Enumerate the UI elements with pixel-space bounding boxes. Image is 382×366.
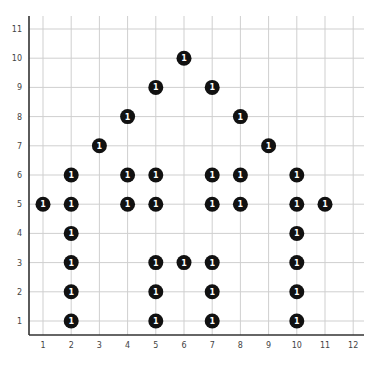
data-point-marker: 1 bbox=[289, 314, 304, 329]
data-point-marker: 1 bbox=[233, 168, 248, 183]
marker-label: 1 bbox=[209, 259, 215, 268]
marker-label: 1 bbox=[209, 200, 215, 209]
data-point-marker: 1 bbox=[205, 284, 220, 299]
marker-label: 1 bbox=[68, 200, 74, 209]
y-tick-label: 7 bbox=[17, 142, 22, 151]
marker-label: 1 bbox=[40, 200, 46, 209]
data-point-marker: 1 bbox=[289, 168, 304, 183]
y-tick-label: 2 bbox=[17, 288, 22, 297]
data-point-marker: 1 bbox=[205, 80, 220, 95]
data-point-marker: 1 bbox=[289, 284, 304, 299]
data-point-marker: 1 bbox=[120, 168, 135, 183]
data-point-marker: 1 bbox=[233, 109, 248, 124]
marker-label: 1 bbox=[238, 113, 244, 122]
data-point-marker: 1 bbox=[205, 314, 220, 329]
y-tick-label: 4 bbox=[17, 229, 22, 238]
x-tick-label: 1 bbox=[40, 341, 45, 350]
marker-label: 1 bbox=[294, 317, 300, 326]
marker-label: 1 bbox=[153, 317, 159, 326]
marker-label: 1 bbox=[68, 317, 74, 326]
marker-label: 1 bbox=[209, 317, 215, 326]
data-point-marker: 1 bbox=[120, 197, 135, 212]
marker-label: 1 bbox=[153, 200, 159, 209]
y-tick-label: 5 bbox=[17, 200, 22, 209]
y-tick-labels: 1234567891011 bbox=[12, 25, 22, 326]
data-point-marker: 1 bbox=[177, 255, 192, 270]
marker-label: 1 bbox=[153, 83, 159, 92]
x-tick-label: 6 bbox=[181, 341, 186, 350]
marker-label: 1 bbox=[238, 200, 244, 209]
data-point-marker: 1 bbox=[148, 80, 163, 95]
marker-label: 1 bbox=[181, 259, 187, 268]
data-point-marker: 1 bbox=[64, 255, 79, 270]
data-point-marker: 1 bbox=[148, 314, 163, 329]
data-point-marker: 1 bbox=[120, 109, 135, 124]
marker-label: 1 bbox=[68, 171, 74, 180]
x-tick-label: 7 bbox=[210, 341, 215, 350]
marker-label: 1 bbox=[153, 171, 159, 180]
x-tick-label: 10 bbox=[292, 341, 302, 350]
y-tick-label: 8 bbox=[17, 113, 22, 122]
x-tick-label: 3 bbox=[97, 341, 102, 350]
x-tick-label: 5 bbox=[153, 341, 158, 350]
y-tick-label: 11 bbox=[12, 25, 22, 34]
data-point-marker: 1 bbox=[148, 197, 163, 212]
data-point-marker: 1 bbox=[261, 138, 276, 153]
data-point-marker: 1 bbox=[148, 255, 163, 270]
data-point-marker: 1 bbox=[64, 197, 79, 212]
x-tick-labels: 123456789101112 bbox=[40, 341, 358, 350]
marker-label: 1 bbox=[322, 200, 328, 209]
marker-label: 1 bbox=[294, 259, 300, 268]
marker-label: 1 bbox=[294, 229, 300, 238]
grid bbox=[29, 16, 364, 335]
marker-label: 1 bbox=[68, 259, 74, 268]
marker-label: 1 bbox=[97, 142, 103, 151]
data-point-marker: 1 bbox=[148, 284, 163, 299]
marker-label: 1 bbox=[125, 171, 131, 180]
marker-label: 1 bbox=[125, 113, 131, 122]
x-tick-label: 12 bbox=[348, 341, 358, 350]
marker-label: 1 bbox=[266, 142, 272, 151]
data-point-marker: 1 bbox=[289, 197, 304, 212]
data-point-marker: 1 bbox=[205, 197, 220, 212]
x-tick-label: 9 bbox=[266, 341, 271, 350]
data-point-marker: 1 bbox=[289, 226, 304, 241]
scatter-chart: 123456789101112 1234567891011 1111111111… bbox=[0, 0, 382, 366]
data-point-marker: 1 bbox=[36, 197, 51, 212]
y-tick-label: 3 bbox=[17, 259, 22, 268]
data-point-marker: 1 bbox=[289, 255, 304, 270]
marker-label: 1 bbox=[153, 259, 159, 268]
marker-label: 1 bbox=[209, 171, 215, 180]
x-tick-label: 4 bbox=[125, 341, 130, 350]
marker-label: 1 bbox=[181, 54, 187, 63]
data-point-marker: 1 bbox=[92, 138, 107, 153]
marker-label: 1 bbox=[153, 288, 159, 297]
y-tick-label: 1 bbox=[17, 317, 22, 326]
y-tick-label: 9 bbox=[17, 83, 22, 92]
data-point-marker: 1 bbox=[318, 197, 333, 212]
data-point-marker: 1 bbox=[177, 51, 192, 66]
y-tick-label: 10 bbox=[12, 54, 22, 63]
marker-label: 1 bbox=[294, 171, 300, 180]
x-tick-label: 2 bbox=[69, 341, 74, 350]
marker-label: 1 bbox=[209, 288, 215, 297]
marker-label: 1 bbox=[68, 229, 74, 238]
y-tick-label: 6 bbox=[17, 171, 22, 180]
marker-label: 1 bbox=[238, 171, 244, 180]
data-point-marker: 1 bbox=[64, 314, 79, 329]
marker-label: 1 bbox=[294, 200, 300, 209]
data-point-marker: 1 bbox=[64, 284, 79, 299]
data-point-marker: 1 bbox=[64, 168, 79, 183]
marker-label: 1 bbox=[68, 288, 74, 297]
data-point-marker: 1 bbox=[233, 197, 248, 212]
data-point-marker: 1 bbox=[148, 168, 163, 183]
x-tick-label: 8 bbox=[238, 341, 243, 350]
x-tick-label: 11 bbox=[320, 341, 330, 350]
data-point-marker: 1 bbox=[205, 255, 220, 270]
data-point-marker: 1 bbox=[64, 226, 79, 241]
marker-label: 1 bbox=[209, 83, 215, 92]
marker-label: 1 bbox=[125, 200, 131, 209]
marker-label: 1 bbox=[294, 288, 300, 297]
data-point-marker: 1 bbox=[205, 168, 220, 183]
